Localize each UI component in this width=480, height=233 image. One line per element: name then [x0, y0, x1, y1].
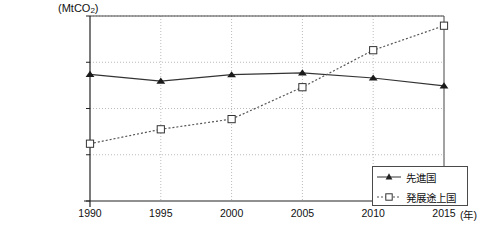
legend-item-developed: 先進国 — [373, 167, 467, 187]
legend-marker-filled-triangle-icon — [376, 171, 402, 183]
legend-label-developing: 発展途上国 — [402, 190, 456, 205]
series-line-developing — [90, 26, 444, 144]
data-point-marker-square — [299, 84, 306, 91]
data-point-marker-square — [157, 126, 164, 133]
chart-container: (MtCO2) 05000100001500020000 19901995200… — [0, 0, 480, 233]
data-point-marker-square — [228, 116, 235, 123]
legend-label-developed: 先進国 — [402, 170, 436, 185]
data-point-marker-square — [370, 47, 377, 54]
legend-marker-open-square-icon — [376, 191, 402, 203]
chart-legend: 先進国 発展途上国 — [372, 166, 468, 206]
data-point-marker-square — [86, 140, 93, 147]
data-point-marker-square — [440, 22, 447, 29]
legend-item-developing: 発展途上国 — [373, 187, 467, 207]
series-line-developed — [90, 73, 444, 86]
data-point-marker-triangle — [86, 71, 95, 77]
